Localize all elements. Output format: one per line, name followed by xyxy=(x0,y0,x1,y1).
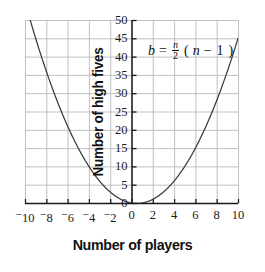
y-tick-label: 25 xyxy=(115,105,128,118)
y-tick-label: 0 xyxy=(121,197,127,210)
tick-value: 8 xyxy=(46,211,52,225)
y-tick-label: 15 xyxy=(115,142,128,155)
x-tick-label: −10 xyxy=(16,209,35,224)
formula-equals: = xyxy=(158,43,168,59)
series-path xyxy=(25,2,238,204)
tick-value: 2 xyxy=(110,211,116,225)
tick-value: 6 xyxy=(192,208,198,222)
tick-value: 8 xyxy=(214,208,220,222)
formula-fraction-denominator: 2 xyxy=(172,50,179,61)
y-tick-label: 30 xyxy=(115,87,128,100)
chart-figure: −10−8−6−4−20246810 05101520253035404550 … xyxy=(0,0,265,272)
y-axis-title-container: Number of high fives xyxy=(86,20,108,203)
y-tick-label: 5 xyxy=(121,178,127,191)
tick-value: 10 xyxy=(232,208,245,222)
x-tick-label: 10 xyxy=(232,209,245,222)
formula-minus: − xyxy=(203,43,213,59)
tick-value: 2 xyxy=(150,208,156,222)
formula-open-paren: ( xyxy=(183,43,190,59)
y-tick-label: 10 xyxy=(115,160,128,173)
formula-fraction: n 2 xyxy=(172,40,179,62)
y-tick-label: 35 xyxy=(115,69,128,82)
y-tick-label: 50 xyxy=(115,14,128,27)
tick-value: 10 xyxy=(22,211,35,225)
formula-annotation: b = n 2 ( n − 1 ) xyxy=(148,40,234,62)
y-tick-label: 20 xyxy=(115,124,128,137)
y-axis-title: Number of high fives xyxy=(89,47,106,176)
x-tick-label: −2 xyxy=(104,209,117,224)
x-tick-label: 2 xyxy=(150,209,156,222)
formula-one: 1 xyxy=(216,43,225,59)
x-tick-label: 6 xyxy=(192,209,198,222)
tick-value: 0 xyxy=(128,208,134,222)
y-tick-label: 40 xyxy=(115,50,128,63)
x-axis-title: Number of players xyxy=(11,236,255,254)
x-tick-label: 0 xyxy=(128,209,134,222)
x-tick-label: −4 xyxy=(83,209,96,224)
y-tick-label: 45 xyxy=(115,32,128,45)
formula-inner-var: n xyxy=(193,43,200,59)
tick-value: 4 xyxy=(171,208,177,222)
x-tick-label: 4 xyxy=(171,209,177,222)
tick-value: 4 xyxy=(89,211,95,225)
x-tick-label: −6 xyxy=(61,209,74,224)
x-tick-label: −8 xyxy=(40,209,53,224)
x-tick-label: 8 xyxy=(214,209,220,222)
formula-close-paren: ) xyxy=(228,43,235,59)
formula-fraction-numerator: n xyxy=(172,40,179,50)
formula-lhs: b xyxy=(148,43,155,59)
tick-value: 6 xyxy=(68,211,74,225)
